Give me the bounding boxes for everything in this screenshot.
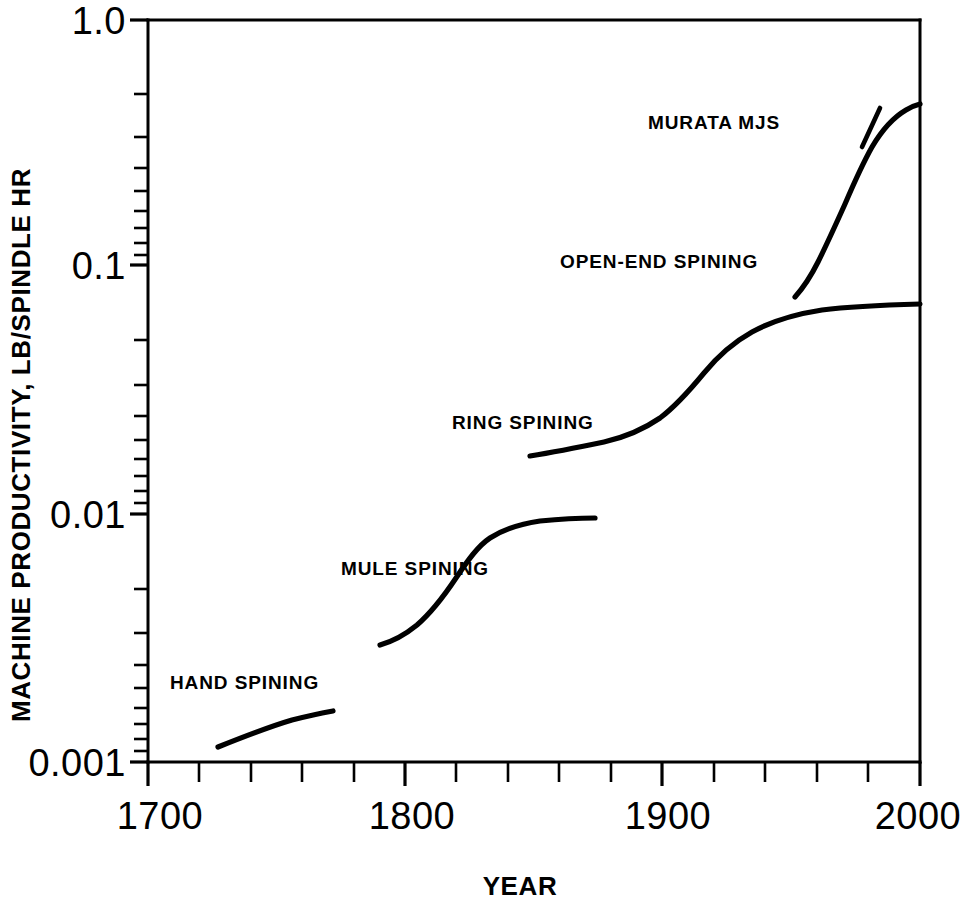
curve-mule-spining (380, 518, 595, 645)
curve-open-end-spining (795, 104, 920, 297)
series-label-mule-spining: MULE SPINING (341, 558, 489, 579)
curve-hand-spining (218, 711, 333, 747)
chart-figure: 1.0 0.1 0.01 0.001 1700 1800 1900 2000 M… (0, 0, 971, 907)
series-labels: HAND SPINING MULE SPINING RING SPINING O… (170, 112, 780, 693)
y-axis-ticks (130, 20, 148, 762)
axis-frame (148, 20, 920, 762)
y-tick-label-3: 0.01 (50, 494, 126, 536)
series-label-open-end-spining: OPEN-END SPINING (560, 251, 758, 272)
x-tick-labels: 1700 1800 1900 2000 (117, 795, 962, 837)
series-label-murata-mjs: MURATA MJS (648, 112, 780, 133)
y-tick-label-4: 0.001 (28, 742, 126, 784)
series-label-hand-spining: HAND SPINING (170, 672, 319, 693)
y-axis-title: MACHINE PRODUCTIVITY, LB/SPINDLE HR (6, 168, 36, 722)
y-tick-labels: 1.0 0.1 0.01 0.001 (28, 0, 126, 784)
y-tick-label-2: 0.1 (72, 245, 126, 287)
x-tick-label-2: 1800 (369, 795, 456, 837)
x-tick-label-4: 2000 (875, 795, 962, 837)
x-axis-title: YEAR (483, 871, 558, 901)
x-axis-ticks (148, 762, 920, 786)
x-tick-label-1: 1700 (117, 795, 204, 837)
x-tick-label-3: 1900 (625, 795, 712, 837)
chart-svg: 1.0 0.1 0.01 0.001 1700 1800 1900 2000 M… (0, 0, 971, 907)
y-tick-label-1: 1.0 (72, 0, 126, 42)
curve-ring-spining (530, 304, 920, 456)
series-label-ring-spining: RING SPINING (452, 412, 594, 433)
